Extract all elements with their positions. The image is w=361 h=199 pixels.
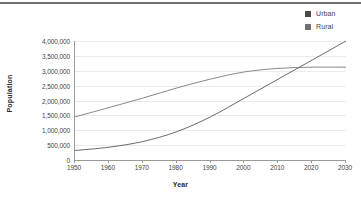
population-line-chart: Population Year UrbanRural 0500,0001,000… bbox=[0, 0, 361, 199]
x-tick-label: 1980 bbox=[169, 164, 183, 171]
x-tick-label: 2000 bbox=[236, 164, 250, 171]
x-tick-label: 1970 bbox=[135, 164, 149, 171]
plot-area bbox=[74, 41, 346, 161]
series-lines bbox=[75, 41, 346, 160]
series-line-rural bbox=[75, 67, 346, 117]
x-tick-label: 2010 bbox=[270, 164, 284, 171]
x-tick-label: 1990 bbox=[202, 164, 216, 171]
x-tick-label: 2020 bbox=[304, 164, 318, 171]
x-tick-label: 1950 bbox=[67, 164, 81, 171]
x-tick-label: 1960 bbox=[101, 164, 115, 171]
x-tick-label: 2030 bbox=[338, 164, 352, 171]
series-line-urban bbox=[75, 41, 346, 150]
